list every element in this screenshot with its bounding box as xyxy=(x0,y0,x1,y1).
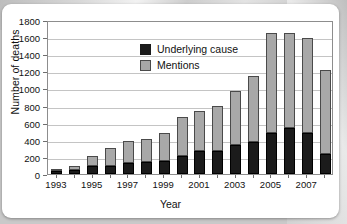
bar-column xyxy=(248,76,259,174)
x-tick-label: 2003 xyxy=(224,179,245,190)
bar-segment-mentions xyxy=(230,91,241,144)
bar-segment-mentions xyxy=(302,38,313,133)
bar-segment-mentions xyxy=(194,111,205,151)
bar-segment-underlying-cause xyxy=(69,170,80,174)
bar-segment-underlying-cause xyxy=(177,156,188,174)
x-tick-mark xyxy=(306,175,307,178)
x-tick-mark xyxy=(324,175,325,178)
bar-segment-underlying-cause xyxy=(248,142,259,174)
legend-item-underlying-cause: Underlying cause xyxy=(140,43,238,55)
x-tick-label: 1999 xyxy=(153,179,174,190)
bar-segment-underlying-cause xyxy=(159,161,170,174)
bar-segment-underlying-cause xyxy=(87,166,98,174)
bar-column xyxy=(51,170,62,174)
x-tick-mark xyxy=(217,175,218,178)
bar-segment-underlying-cause xyxy=(123,163,134,174)
bar-segment-underlying-cause xyxy=(302,133,313,174)
bar-segment-underlying-cause xyxy=(212,151,223,174)
bar-segment-underlying-cause xyxy=(141,162,152,174)
legend-label-underlying-cause: Underlying cause xyxy=(157,43,238,55)
bar-column xyxy=(177,117,188,174)
bar-column xyxy=(87,156,98,174)
bar-segment-mentions xyxy=(177,117,188,156)
bar-segment-underlying-cause xyxy=(266,133,277,174)
x-tick-mark xyxy=(253,175,254,178)
x-tick-mark xyxy=(92,175,93,178)
bar-column xyxy=(230,91,241,174)
x-tick-mark xyxy=(235,175,236,178)
bar-segment-mentions xyxy=(87,156,98,166)
x-tick-label: 2007 xyxy=(296,179,317,190)
x-tick-mark xyxy=(74,175,75,178)
bar-column xyxy=(284,33,295,174)
y-tick-label: 1600 xyxy=(19,33,40,44)
x-tick-mark xyxy=(163,175,164,178)
y-tick-label: 800 xyxy=(24,101,40,112)
bar-segment-underlying-cause xyxy=(284,128,295,174)
legend-swatch-underlying-cause xyxy=(140,44,151,55)
legend: Underlying cause Mentions xyxy=(140,43,238,75)
y-axis-ticks: 020040060080010001200140016001800 xyxy=(2,21,47,175)
bar-segment-mentions xyxy=(266,33,277,132)
bar-segment-mentions xyxy=(248,76,259,141)
bar-segment-underlying-cause xyxy=(194,151,205,174)
x-tick-mark xyxy=(145,175,146,178)
bar-segment-mentions xyxy=(105,148,116,166)
plot-area: Underlying cause Mentions xyxy=(47,21,333,175)
bar-column xyxy=(302,38,313,174)
y-tick-label: 1000 xyxy=(19,84,40,95)
bar-column xyxy=(194,111,205,174)
bar-column xyxy=(105,148,116,174)
bar-column xyxy=(212,106,223,174)
bar-segment-mentions xyxy=(159,133,170,161)
legend-swatch-mentions xyxy=(140,60,151,71)
legend-label-mentions: Mentions xyxy=(157,59,200,71)
bar-segment-mentions xyxy=(212,106,223,151)
x-tick-label: 1995 xyxy=(81,179,102,190)
x-tick-label: 2005 xyxy=(260,179,281,190)
bar-column xyxy=(320,70,331,174)
screenshot-stage: Number of deaths 02004006008001000120014… xyxy=(0,0,347,224)
x-tick-mark xyxy=(270,175,271,178)
bar-column xyxy=(159,133,170,174)
x-axis-label: Year xyxy=(2,198,339,210)
x-tick-mark xyxy=(56,175,57,178)
x-tick-mark xyxy=(127,175,128,178)
y-tick-label: 1400 xyxy=(19,50,40,61)
y-tick-label: 200 xyxy=(24,152,40,163)
bar-segment-underlying-cause xyxy=(320,154,331,174)
x-tick-mark xyxy=(288,175,289,178)
x-tick-label: 2001 xyxy=(188,179,209,190)
bar-column xyxy=(123,141,134,174)
bar-segment-mentions xyxy=(141,139,152,163)
y-tick-label: 600 xyxy=(24,118,40,129)
bar-segment-underlying-cause xyxy=(105,166,116,174)
y-tick-label: 1200 xyxy=(19,67,40,78)
y-tick-label: 400 xyxy=(24,135,40,146)
bar-segment-underlying-cause xyxy=(51,171,62,174)
bar-segment-mentions xyxy=(123,141,134,164)
y-tick-label: 0 xyxy=(35,170,40,181)
x-tick-mark xyxy=(199,175,200,178)
x-tick-label: 1997 xyxy=(117,179,138,190)
figure-card: Number of deaths 02004006008001000120014… xyxy=(2,4,339,218)
stacked-bar-chart: Number of deaths 02004006008001000120014… xyxy=(2,4,339,218)
bar-segment-mentions xyxy=(284,33,295,128)
legend-item-mentions: Mentions xyxy=(140,59,238,71)
y-tick-label: 1800 xyxy=(19,16,40,27)
bar-column xyxy=(266,33,277,174)
x-tick-mark xyxy=(181,175,182,178)
x-tick-label: 1993 xyxy=(45,179,66,190)
bar-column xyxy=(69,166,80,174)
x-axis-ticks: 19931995199719992001200320052007 xyxy=(47,175,333,197)
bar-segment-mentions xyxy=(320,70,331,154)
bar-segment-underlying-cause xyxy=(230,145,241,174)
x-tick-mark xyxy=(110,175,111,178)
bar-column xyxy=(141,139,152,175)
